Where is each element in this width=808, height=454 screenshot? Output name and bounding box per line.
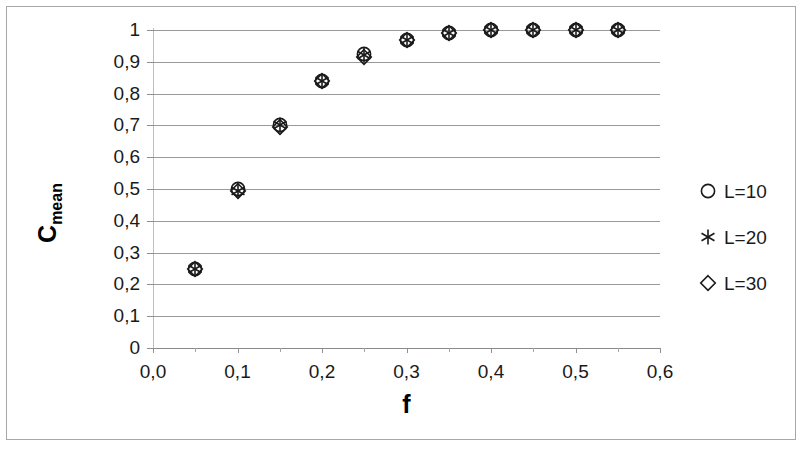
data-point-marker xyxy=(227,180,249,202)
x-axis-tick-label: 0,5 xyxy=(546,362,606,381)
y-axis-tick xyxy=(147,284,154,285)
x-axis-tick xyxy=(153,348,154,353)
y-axis-tick-label: 0,6 xyxy=(82,147,140,166)
legend-item-l30[interactable]: L=30 xyxy=(697,260,802,306)
data-point-marker xyxy=(565,19,587,41)
y-axis-tick xyxy=(147,221,154,222)
y-axis-tick-label: 0,5 xyxy=(82,179,140,198)
data-point-marker xyxy=(396,29,418,51)
y-axis-title-subscript: mean xyxy=(48,183,65,225)
y-axis-title-text: Cmean xyxy=(35,183,65,243)
y-axis-tick-label: 0,3 xyxy=(82,243,140,262)
y-axis-tick-labels: 10,90,80,70,60,50,40,30,20,10 xyxy=(78,0,140,454)
y-axis-title: Cmean xyxy=(30,148,70,278)
legend-item-label: L=20 xyxy=(724,228,767,247)
x-axis-tick xyxy=(322,348,323,353)
y-axis-tick xyxy=(147,62,154,63)
legend-item-l20[interactable]: L=20 xyxy=(697,214,802,260)
x-axis-minor-tick xyxy=(364,348,365,352)
x-axis-tick xyxy=(407,348,408,353)
data-point-marker xyxy=(184,258,206,280)
y-axis-tick-label: 0,7 xyxy=(82,115,140,134)
x-axis-tick xyxy=(660,348,661,353)
y-axis-tick-label: 0,2 xyxy=(82,274,140,293)
chart-legend: L=10L=20L=30 xyxy=(697,168,802,306)
y-axis-tick-label: 0,9 xyxy=(82,52,140,71)
circle-marker-icon xyxy=(697,180,719,202)
legend-item-label: L=30 xyxy=(724,274,767,293)
data-point-marker xyxy=(353,46,375,68)
x-axis-tick-label: 0,1 xyxy=(208,362,268,381)
gridline xyxy=(153,94,660,95)
scatter-chart: 10,90,80,70,60,50,40,30,20,10 Cmean f L=… xyxy=(0,0,808,454)
gridline xyxy=(153,125,660,126)
data-point-marker xyxy=(607,19,629,41)
diamond-marker-icon xyxy=(697,272,719,294)
data-point-marker xyxy=(269,116,291,138)
legend-item-label: L=10 xyxy=(724,182,767,201)
x-axis-minor-tick xyxy=(533,348,534,352)
y-axis-tick xyxy=(147,94,154,95)
x-axis-minor-tick xyxy=(618,348,619,352)
asterisk-marker-icon xyxy=(697,226,719,248)
gridline xyxy=(153,253,660,254)
data-point-marker xyxy=(480,19,502,41)
y-axis-tick xyxy=(147,253,154,254)
y-axis-tick xyxy=(147,30,154,31)
gridline xyxy=(153,62,660,63)
data-point-marker xyxy=(522,19,544,41)
y-axis-tick-label: 0 xyxy=(82,338,140,357)
y-axis-tick-label: 0,8 xyxy=(82,84,140,103)
x-axis-tick xyxy=(576,348,577,353)
y-axis-tick-label: 0,1 xyxy=(82,306,140,325)
legend-item-l10[interactable]: L=10 xyxy=(697,168,802,214)
x-axis-tick-label: 0,6 xyxy=(630,362,690,381)
y-axis-tick-label: 1 xyxy=(82,20,140,39)
x-axis-minor-tick xyxy=(280,348,281,352)
x-axis-tick-label: 0,4 xyxy=(461,362,521,381)
gridline xyxy=(153,316,660,317)
x-axis-tick-label: 0,3 xyxy=(377,362,437,381)
y-axis-title-main: C xyxy=(33,225,61,243)
x-axis-tick-label: 0,0 xyxy=(123,362,183,381)
y-axis-tick xyxy=(147,189,154,190)
gridline xyxy=(153,157,660,158)
data-point-marker xyxy=(438,22,460,44)
data-point-marker xyxy=(311,70,333,92)
x-axis-title: f xyxy=(153,392,660,417)
x-axis-minor-tick xyxy=(195,348,196,352)
x-axis-minor-tick xyxy=(449,348,450,352)
y-axis-tick xyxy=(147,316,154,317)
chart-screenshot: 10,90,80,70,60,50,40,30,20,10 Cmean f L=… xyxy=(0,0,808,454)
gridline xyxy=(153,221,660,222)
y-axis-tick xyxy=(147,157,154,158)
gridline xyxy=(153,284,660,285)
x-axis-tick xyxy=(491,348,492,353)
x-axis-tick xyxy=(238,348,239,353)
x-axis-tick-label: 0,2 xyxy=(292,362,352,381)
y-axis-tick-label: 0,4 xyxy=(82,211,140,230)
y-axis-tick xyxy=(147,125,154,126)
